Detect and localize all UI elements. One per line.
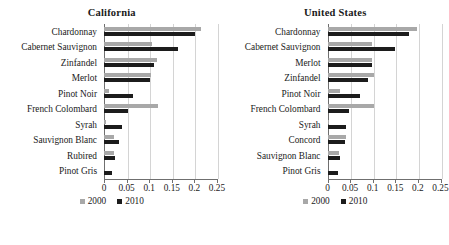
bar-2000 bbox=[104, 151, 114, 155]
bar-group bbox=[104, 89, 217, 99]
bar-group bbox=[328, 89, 441, 99]
category-label: French Colombard bbox=[251, 104, 321, 114]
legend-entry: 2000 bbox=[303, 196, 330, 206]
legend-entry: 2010 bbox=[341, 196, 368, 206]
bar-2010 bbox=[328, 140, 345, 144]
axis-tick-label: 0.15 bbox=[387, 183, 403, 194]
bar-2010 bbox=[328, 78, 369, 82]
bar-2000 bbox=[104, 27, 201, 31]
legend-label: 2010 bbox=[125, 196, 144, 206]
bar-2000 bbox=[104, 120, 106, 124]
legend-entry: 2000 bbox=[80, 196, 107, 206]
bar-group bbox=[328, 166, 441, 176]
bar-2010 bbox=[104, 78, 150, 82]
legend-label: 2000 bbox=[311, 196, 330, 206]
bar-2010 bbox=[104, 109, 128, 113]
bar-group bbox=[104, 166, 217, 176]
axis-tick-label: 0.05 bbox=[342, 183, 358, 194]
bar-2000 bbox=[104, 104, 158, 108]
bar-group bbox=[104, 42, 217, 52]
gridline bbox=[218, 24, 219, 179]
bar-2000 bbox=[328, 151, 339, 155]
bar-group bbox=[328, 58, 441, 68]
bar-group bbox=[104, 135, 217, 145]
chart-panel-united-states: United States ChardonnayCabernet Sauvign… bbox=[224, 0, 448, 245]
axis-tick-label: 0.1 bbox=[367, 183, 379, 194]
bar-2000 bbox=[328, 73, 374, 77]
bar-2000 bbox=[328, 104, 374, 108]
bar-group bbox=[104, 151, 217, 161]
legend-swatch bbox=[80, 199, 85, 204]
category-label: Syrah bbox=[299, 120, 321, 130]
category-label: Chardonnay bbox=[52, 27, 97, 37]
axis-tick-label: 0.2 bbox=[412, 183, 424, 194]
axis-tick-label: 0.15 bbox=[164, 183, 180, 194]
axis-tick-label: 0.05 bbox=[118, 183, 134, 194]
bar-group bbox=[328, 151, 441, 161]
category-axis-labels: ChardonnayCabernet SauvignonMerlotZinfan… bbox=[224, 24, 325, 184]
legend-swatch bbox=[117, 199, 122, 204]
axis-tick-label: 0.1 bbox=[143, 183, 155, 194]
chart-legend: 20002010 bbox=[0, 196, 224, 206]
category-label: Sauvignon Blanc bbox=[33, 135, 97, 145]
axis-tick-label: 0 bbox=[102, 183, 107, 194]
bar-2010 bbox=[328, 63, 372, 67]
category-label: Zinfandel bbox=[61, 58, 97, 68]
bar-group bbox=[328, 42, 441, 52]
bar-2000 bbox=[328, 135, 346, 139]
bar-group bbox=[104, 120, 217, 130]
axis-tick-label: 0.25 bbox=[432, 183, 448, 194]
bar-2010 bbox=[328, 171, 338, 175]
bar-2010 bbox=[328, 109, 349, 113]
legend-label: 2000 bbox=[88, 196, 107, 206]
category-label: Merlot bbox=[72, 73, 97, 83]
category-label: Rubired bbox=[67, 151, 97, 161]
legend-entry: 2010 bbox=[117, 196, 144, 206]
category-axis-labels: ChardonnayCabernet SauvignonZinfandelMer… bbox=[0, 24, 101, 184]
bar-group bbox=[328, 120, 441, 130]
bar-2010 bbox=[104, 94, 133, 98]
bar-2010 bbox=[104, 32, 195, 36]
bar-group bbox=[328, 27, 441, 37]
bar-group bbox=[104, 73, 217, 83]
legend-swatch bbox=[341, 199, 346, 204]
category-label: Cabernet Sauvignon bbox=[21, 42, 97, 52]
category-label: Pinot Gris bbox=[283, 166, 321, 176]
bar-2000 bbox=[328, 120, 330, 124]
bar-2010 bbox=[328, 156, 341, 160]
category-label: Merlot bbox=[295, 58, 320, 68]
category-label: French Colombard bbox=[27, 104, 97, 114]
bar-2010 bbox=[328, 125, 346, 129]
bar-2010 bbox=[328, 32, 409, 36]
bar-2010 bbox=[104, 47, 178, 51]
bar-2000 bbox=[328, 27, 417, 31]
bar-group bbox=[104, 104, 217, 114]
bar-2000 bbox=[104, 73, 151, 77]
chart-title: California bbox=[0, 0, 224, 20]
bar-2000 bbox=[328, 42, 372, 46]
bar-2010 bbox=[104, 63, 154, 67]
bar-group bbox=[328, 135, 441, 145]
chart-legend: 20002010 bbox=[224, 196, 448, 206]
value-axis-ticks: 00.050.10.150.20.25 bbox=[104, 180, 217, 192]
bar-2000 bbox=[104, 135, 114, 139]
category-label: Zinfandel bbox=[284, 73, 320, 83]
legend-label: 2010 bbox=[349, 196, 368, 206]
axis-tick-label: 0 bbox=[325, 183, 330, 194]
bar-2010 bbox=[104, 140, 119, 144]
axis-tick-label: 0.2 bbox=[189, 183, 201, 194]
category-label: Cabernet Sauvignon bbox=[245, 42, 321, 52]
bar-2010 bbox=[328, 94, 361, 98]
bar-2000 bbox=[104, 58, 157, 62]
bar-2010 bbox=[328, 47, 396, 51]
bar-2000 bbox=[104, 89, 109, 93]
bar-2010 bbox=[104, 156, 115, 160]
category-label: Chardonnay bbox=[275, 27, 320, 37]
bar-2010 bbox=[104, 125, 122, 129]
bar-2000 bbox=[328, 89, 341, 93]
bar-group bbox=[328, 73, 441, 83]
category-label: Concord bbox=[288, 135, 320, 145]
gridline bbox=[442, 24, 443, 179]
plot-area: ChardonnayCabernet SauvignonMerlotZinfan… bbox=[224, 24, 448, 184]
